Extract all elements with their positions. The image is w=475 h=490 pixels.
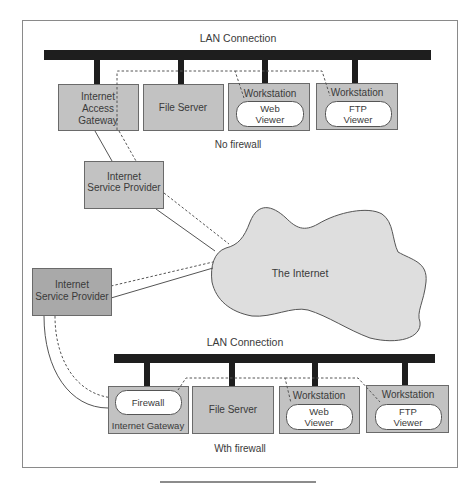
bottom-stem-web [312, 363, 318, 386]
bottom-fileserver-label: File Server [209, 404, 258, 415]
bottom-gateway-label: Internet Gateway [112, 420, 185, 431]
top-stem-gateway [94, 60, 100, 84]
top-ftp-viewer-line1: FTP [349, 103, 367, 114]
bottom-isp-line1: Internet [55, 279, 89, 290]
bottom-web-ws-title: Workstation [293, 390, 346, 401]
bottom-fileserver-node[interactable]: File Server [193, 387, 274, 434]
top-isp-node[interactable]: Internet Service Provider [85, 162, 164, 209]
bottom-ftp-workstation[interactable]: Workstation FTP Viewer [367, 386, 449, 433]
top-stem-ftp [352, 60, 358, 83]
bottom-ftp-viewer-line2: Viewer [394, 417, 423, 428]
bottom-stem-gateway [144, 363, 150, 386]
top-gateway-line3: Gateway [78, 115, 117, 126]
top-isp-line1: Internet [107, 171, 141, 182]
internet-label: The Internet [272, 267, 329, 279]
top-fileserver-label: File Server [159, 102, 208, 113]
bottom-gateway-node[interactable]: Firewall Internet Gateway [109, 387, 189, 434]
top-web-workstation[interactable]: Workstation Web Viewer [229, 84, 310, 131]
top-stem-fileserver [178, 60, 184, 84]
top-caption: No firewall [215, 139, 262, 150]
top-web-viewer-line2: Viewer [256, 114, 285, 125]
top-gateway-node[interactable]: Internet Access Gateway [59, 85, 139, 131]
top-ftp-workstation[interactable]: Workstation FTP Viewer [317, 84, 398, 130]
bottom-stem-ftp [402, 363, 408, 385]
bottom-ftp-viewer-line1: FTP [399, 406, 417, 417]
bottom-ftp-ws-title: Workstation [382, 389, 435, 400]
top-fileserver-node[interactable]: File Server [144, 85, 224, 131]
network-diagram: LAN Connection Internet Access Gateway F… [0, 0, 475, 490]
bottom-isp-line2: Service Provider [35, 291, 109, 302]
bottom-web-viewer-line1: Web [309, 406, 328, 417]
top-lan-label: LAN Connection [200, 32, 277, 44]
bottom-lan-bar [114, 354, 435, 363]
bottom-web-workstation[interactable]: Workstation Web Viewer [280, 387, 360, 434]
top-lan-bar [44, 50, 431, 60]
top-ftp-ws-title: Workstation [331, 87, 384, 98]
top-web-viewer-line1: Web [260, 103, 279, 114]
top-isp-line2: Service Provider [87, 182, 161, 193]
bottom-caption: Wth firewall [214, 443, 266, 454]
top-gateway-line2: Access [82, 103, 114, 114]
bottom-isp-node[interactable]: Internet Service Provider [33, 269, 112, 316]
firewall-label: Firewall [132, 397, 165, 408]
bottom-web-viewer-line2: Viewer [305, 417, 334, 428]
top-ftp-viewer-line2: Viewer [344, 114, 373, 125]
top-gateway-line1: Internet [81, 91, 115, 102]
bottom-lan-label: LAN Connection [207, 336, 284, 348]
top-web-ws-title: Workstation [244, 88, 297, 99]
bottom-stem-fileserver [229, 363, 235, 386]
